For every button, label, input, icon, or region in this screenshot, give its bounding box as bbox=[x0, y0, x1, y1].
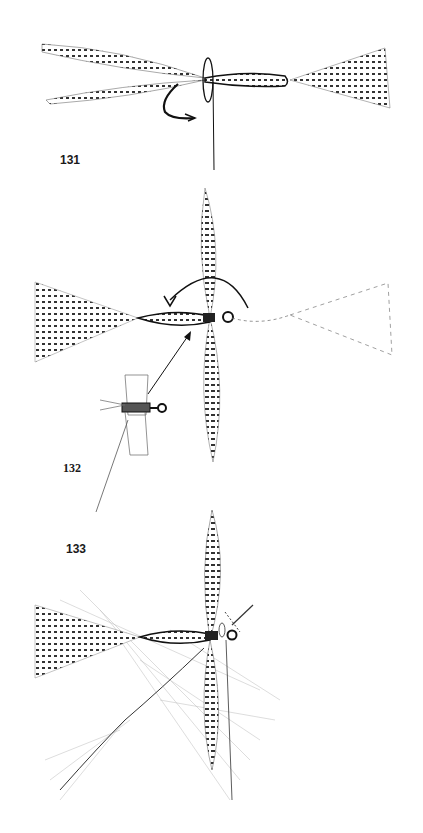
figure-132-drawing bbox=[35, 188, 392, 512]
hackle-stem bbox=[60, 648, 204, 790]
thread-line bbox=[213, 82, 214, 170]
body-133 bbox=[140, 631, 210, 643]
hook-icon bbox=[164, 84, 195, 118]
pointer-arrow bbox=[148, 333, 190, 394]
figure-number-132: 132 bbox=[63, 461, 81, 476]
figure-131-drawing bbox=[42, 44, 390, 170]
hook-eye-133-icon bbox=[228, 631, 237, 640]
ghost-tail-fan bbox=[290, 283, 392, 355]
upper-wing bbox=[201, 188, 216, 318]
tail-fan-left bbox=[35, 282, 138, 362]
lower-wing bbox=[204, 318, 220, 462]
inset-fly bbox=[100, 375, 166, 455]
upper-feather bbox=[42, 44, 205, 78]
tail-fan-133 bbox=[35, 605, 140, 678]
thorax-133 bbox=[205, 631, 218, 640]
body bbox=[205, 73, 288, 86]
thread-133 bbox=[226, 640, 232, 800]
thread-wrap bbox=[219, 623, 225, 637]
dotted-guide bbox=[225, 612, 240, 632]
ghost-body bbox=[232, 315, 290, 321]
inset-hook-eye-icon bbox=[158, 404, 166, 412]
inset-thread bbox=[96, 420, 128, 512]
fly-tying-illustration bbox=[0, 0, 423, 833]
lower-feather bbox=[46, 80, 205, 104]
thorax bbox=[203, 313, 215, 322]
tail-fan bbox=[290, 48, 390, 108]
arrow-head-icon bbox=[164, 296, 176, 306]
figure-number-131: 131 bbox=[60, 153, 80, 167]
hackle-stem-tip bbox=[232, 605, 253, 625]
figure-number-133: 133 bbox=[66, 542, 86, 556]
extended-body bbox=[138, 312, 210, 325]
hook-eye-icon bbox=[223, 312, 233, 322]
upright-wing bbox=[204, 510, 220, 640]
